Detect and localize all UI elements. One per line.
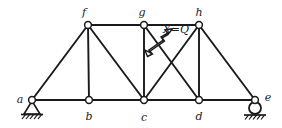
node-label-a: a: [17, 93, 24, 106]
node-c: [141, 97, 148, 104]
member-h-e: [199, 25, 255, 100]
roller-support: [244, 102, 266, 120]
member-a-f: [32, 25, 88, 100]
node-label-e: e: [265, 91, 272, 104]
node-label-g: g: [138, 6, 145, 19]
node-d: [196, 97, 203, 104]
truss-members: [32, 25, 255, 100]
node-g: [141, 22, 148, 29]
node-a: [29, 97, 36, 104]
node-b: [86, 97, 93, 104]
node-label-d: d: [195, 110, 202, 123]
node-f: [85, 22, 92, 29]
node-label-f: f: [81, 6, 88, 19]
member-f-c: [88, 25, 144, 100]
node-h: [196, 22, 203, 29]
node-label-h: h: [195, 6, 202, 19]
truss-diagram-svg: a b c d e f g h X=Q: [0, 0, 282, 128]
member-f-b: [88, 25, 89, 100]
force-label-x-equals-q: X=Q: [162, 23, 189, 36]
node-label-b: b: [85, 110, 92, 123]
truss-diagram-root: a b c d e f g h X=Q: [0, 0, 282, 128]
node-label-c: c: [141, 111, 147, 124]
node-e: [252, 97, 259, 104]
